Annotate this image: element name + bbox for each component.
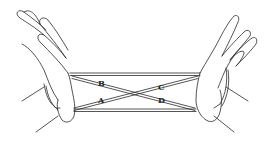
label-b: B (98, 78, 105, 88)
left-hand (17, 11, 75, 132)
string-figure-diagram: B C A D (0, 0, 269, 147)
string-bottom (74, 109, 196, 112)
string-top (70, 73, 200, 76)
label-a: A (97, 95, 105, 105)
label-d: D (158, 95, 165, 105)
right-hand (196, 15, 257, 132)
label-c: C (158, 82, 164, 92)
